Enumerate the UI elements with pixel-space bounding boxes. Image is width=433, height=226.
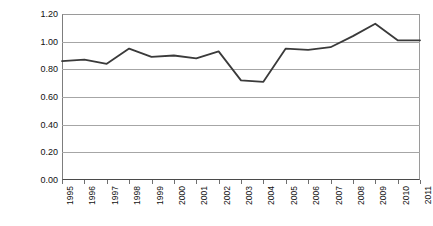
y-axis-tick-label: 0.40 (12, 121, 58, 130)
x-axis-tick-label: 2000 (178, 186, 187, 205)
x-axis-tick (219, 180, 220, 184)
x-axis-tick (375, 180, 376, 184)
x-axis-tick (331, 180, 332, 184)
y-axis-tick-label: 0.20 (12, 148, 58, 157)
x-axis-tick (62, 180, 63, 184)
x-axis-tick-label: 2007 (335, 186, 344, 205)
x-axis-tick-label: 1999 (156, 186, 165, 205)
x-axis-tick-label: 1998 (133, 186, 142, 205)
y-axis-tick-label: 0.00 (12, 176, 58, 185)
x-axis: 1995199619971998199920002001200220032004… (62, 180, 420, 226)
x-axis-tick-label: 1995 (66, 186, 75, 205)
x-axis-tick-label: 1997 (111, 186, 120, 205)
x-axis-tick-label: 2002 (223, 186, 232, 205)
y-axis-tick-labels: 0.000.200.400.600.801.001.20 (0, 14, 58, 180)
x-axis-tick (308, 180, 309, 184)
y-axis-tick-label: 1.00 (12, 38, 58, 47)
x-axis-tick (196, 180, 197, 184)
y-axis-tick-label: 1.20 (12, 10, 58, 19)
plot-area (62, 14, 420, 180)
x-axis-tick (129, 180, 130, 184)
x-axis-tick (152, 180, 153, 184)
x-axis-tick (398, 180, 399, 184)
x-axis-tick (420, 180, 421, 184)
x-axis-tick-label: 2003 (245, 186, 254, 205)
x-axis-tick-label: 2008 (357, 186, 366, 205)
series-line (62, 24, 420, 82)
x-axis-tick-label: 2006 (312, 186, 321, 205)
x-axis-tick (263, 180, 264, 184)
x-axis-tick-label: 2010 (402, 186, 411, 205)
x-axis-tick-label: 2005 (290, 186, 299, 205)
x-axis-tick (353, 180, 354, 184)
x-axis-tick (84, 180, 85, 184)
x-axis-tick-label: 2004 (267, 186, 276, 205)
x-axis-tick (107, 180, 108, 184)
x-axis-tick-label: 2011 (424, 186, 433, 204)
x-axis-tick (286, 180, 287, 184)
series-line-group (62, 14, 420, 180)
x-axis-tick (241, 180, 242, 184)
x-axis-tick-label: 1996 (88, 186, 97, 205)
y-axis-tick-label: 0.80 (12, 65, 58, 74)
x-axis-tick (174, 180, 175, 184)
y-axis-tick-label: 0.60 (12, 93, 58, 102)
x-axis-tick-label: 2001 (200, 186, 209, 205)
x-axis-tick-label: 2009 (379, 186, 388, 205)
